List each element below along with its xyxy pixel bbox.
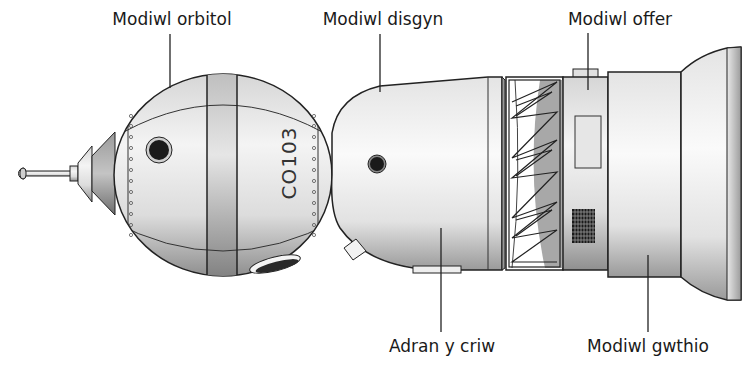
instrument-panel [575,116,601,168]
descent-module [332,77,505,273]
label-instrument-module: Modiwl offer [568,9,672,29]
docking-probe [19,132,116,215]
instrument-module [563,69,608,270]
hull-marking: CO103 [277,127,301,200]
orbital-module [110,70,336,282]
label-orbital-module: Modiwl orbitol [112,9,231,29]
propulsion-module [608,47,741,300]
spacecraft-illustration [0,0,742,366]
label-propulsion-module: Modiwl gwthio [587,336,709,356]
radiator-grid [572,209,595,243]
label-crew-section: Adran y criw [389,336,495,356]
soyuz-diagram: CO103 Modiwl orbitol Modiwl disgyn Modiw… [0,0,742,366]
label-descent-module: Modiwl disgyn [323,9,444,29]
truss-section [506,77,563,270]
